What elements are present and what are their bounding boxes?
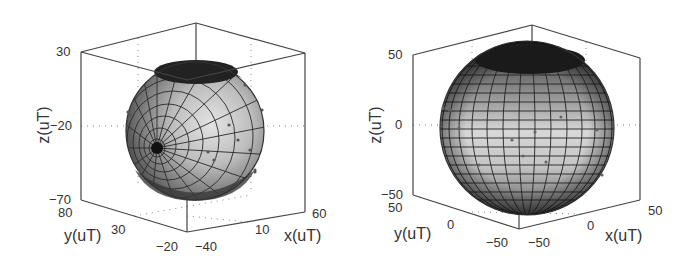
z-tick-top: 30 (56, 45, 70, 58)
x-axis-label: x(uT) (605, 228, 642, 244)
y-tick-mid: 0 (447, 218, 454, 231)
z-tick-mid: 0 (395, 118, 402, 131)
plot-calibrated: 50 0 −50 z(uT) 50 0 −50 y(uT) −50 0 50 x… (347, 0, 694, 267)
x-tick-mid: 0 (587, 219, 594, 232)
y-tick-mid: 30 (111, 223, 125, 236)
y-tick-far: 80 (58, 206, 72, 219)
fitted-sphere (98, 23, 314, 237)
y-tick-far: 50 (388, 201, 402, 214)
plot-uncalibrated: 30 −20 −70 z(uT) 80 30 −20 y(uT) −40 10 … (0, 0, 347, 267)
z-tick-mid: −20 (50, 119, 72, 132)
y-tick-near: −50 (486, 236, 508, 249)
y-axis-label: y(uT) (394, 226, 431, 242)
y-tick-near: −20 (156, 240, 178, 253)
z-axis-label: z(uT) (36, 106, 52, 143)
x-tick-far: 50 (648, 204, 662, 217)
x-tick-near: −40 (195, 240, 217, 253)
x-tick-far: 60 (312, 207, 326, 220)
x-tick-near: −50 (528, 236, 550, 249)
x-axis-label: x(uT) (284, 228, 321, 244)
z-tick-top: 50 (388, 48, 402, 61)
y-axis-label: y(uT) (64, 228, 101, 244)
x-tick-mid: 10 (255, 223, 269, 236)
fitted-sphere (437, 41, 617, 215)
z-axis-label: z(uT) (368, 106, 384, 143)
